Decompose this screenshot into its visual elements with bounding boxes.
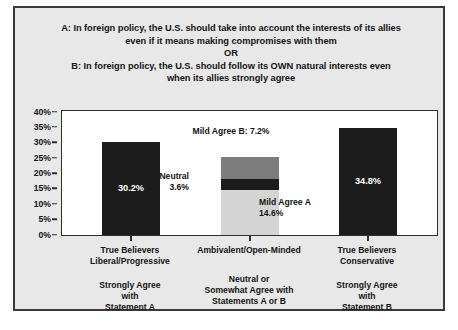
y-axis-tick-label: 25% bbox=[34, 153, 51, 163]
bar-column[interactable]: 34.8% bbox=[339, 128, 397, 235]
bar-segment[interactable] bbox=[221, 157, 279, 179]
bar-segment[interactable] bbox=[221, 179, 279, 190]
bar-value-label: 34.8% bbox=[339, 176, 397, 186]
y-axis-tick-label: 5% bbox=[39, 214, 51, 224]
y-axis-tick-label: 0% bbox=[39, 230, 51, 240]
y-axis-tick-mark bbox=[52, 142, 57, 144]
y-axis-tick-mark bbox=[52, 111, 57, 113]
annotation-neutral-line-2: 3.6% bbox=[133, 182, 189, 193]
chart-title: A: In foreign policy, the U.S. should ta… bbox=[15, 22, 447, 85]
y-axis-tick-mark bbox=[52, 172, 57, 174]
y-axis-tick-label: 30% bbox=[34, 137, 51, 147]
annotation-neutral: Neutral 3.6% bbox=[133, 171, 189, 193]
x-axis-tick-mark bbox=[249, 236, 251, 241]
title-line-3: B: In foreign policy, the U.S. should fo… bbox=[15, 60, 447, 73]
y-axis-tick-mark bbox=[52, 188, 57, 190]
title-line-or: OR bbox=[15, 47, 447, 60]
title-line-4: when its allies strongly agree bbox=[15, 72, 447, 85]
x-axis-category-label: True BelieversConservative bbox=[292, 245, 442, 267]
x-axis-category-sublabel: Strongly AgreewithStatement B bbox=[292, 280, 442, 314]
x-axis-category-sublabel-line: Statement B bbox=[292, 302, 442, 313]
bar[interactable] bbox=[221, 157, 279, 235]
annotation-mild-agree-a-line-2: 14.6% bbox=[259, 208, 311, 219]
annotation-mild-agree-a: Mild Agree A 14.6% bbox=[259, 197, 311, 219]
x-axis-category-sublabel-line: Strongly Agree bbox=[292, 280, 442, 291]
y-axis-tick-mark bbox=[52, 218, 57, 220]
x-axis-category-label-line: True Believers bbox=[292, 245, 442, 256]
x-axis-tick-mark bbox=[130, 236, 132, 241]
bar[interactable]: 34.8% bbox=[339, 128, 397, 235]
y-axis-tick-label: 20% bbox=[34, 168, 51, 178]
y-axis: 40%35%30%25%20%15%10%5%0% bbox=[15, 104, 59, 242]
bar-column[interactable] bbox=[221, 157, 279, 235]
y-axis-tick-label: 15% bbox=[34, 183, 51, 193]
annotation-mild-agree-a-line-1: Mild Agree A bbox=[259, 197, 311, 208]
x-axis-category-label-line: Liberal/Progressive bbox=[55, 256, 205, 267]
y-axis-tick-label: 40% bbox=[34, 107, 51, 117]
y-axis-tick-mark bbox=[52, 234, 57, 236]
y-axis-tick-label: 10% bbox=[34, 199, 51, 209]
x-axis-category-label-line: Conservative bbox=[292, 256, 442, 267]
y-axis-tick-mark bbox=[52, 203, 57, 205]
bar-segment[interactable]: 34.8% bbox=[339, 128, 397, 235]
annotation-neutral-line-1: Neutral bbox=[133, 171, 189, 182]
x-axis-category-sublabel-line: with bbox=[292, 291, 442, 302]
annotation-mild-agree-b: Mild Agree B: 7.2% bbox=[15, 126, 447, 137]
chart-frame: A: In foreign policy, the U.S. should ta… bbox=[13, 6, 445, 311]
y-axis-tick-mark bbox=[52, 157, 57, 159]
title-line-2: even if it means making compromises with… bbox=[15, 35, 447, 48]
title-line-1: A: In foreign policy, the U.S. should ta… bbox=[15, 22, 447, 35]
x-axis-tick-mark bbox=[367, 236, 369, 241]
